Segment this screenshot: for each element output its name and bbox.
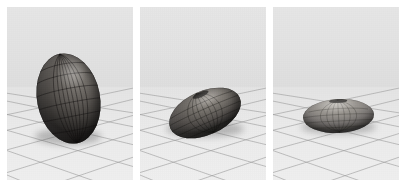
render-panel-2[interactable] [140, 7, 266, 180]
three-panel-figure [0, 0, 401, 180]
ellipsoid-solid-2[interactable] [161, 77, 248, 148]
render-panel-1[interactable] [7, 7, 133, 180]
ellipsoid-scene-2 [140, 7, 266, 180]
wireframe-mesh-2 [161, 77, 248, 148]
ellipsoid-solid-3[interactable] [302, 97, 375, 135]
ellipsoid-scene-3 [273, 7, 399, 180]
ellipsoid-scene-1 [7, 7, 133, 180]
render-panel-3[interactable] [273, 7, 399, 180]
